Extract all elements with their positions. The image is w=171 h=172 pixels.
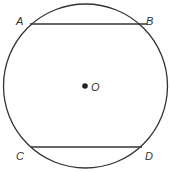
center-point	[82, 83, 88, 89]
label-b: B	[146, 15, 153, 27]
label-o: O	[91, 81, 100, 93]
label-a: A	[15, 15, 23, 27]
label-d: D	[145, 150, 153, 162]
circle-diagram: O A B C D	[0, 0, 171, 172]
label-c: C	[16, 150, 24, 162]
